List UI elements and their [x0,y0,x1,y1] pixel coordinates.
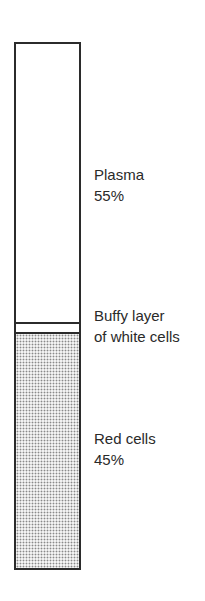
plasma-name: Plasma [94,164,144,185]
buffy-label: Buffy layer of white cells [94,305,180,347]
red-cells-label: Red cells 45% [94,428,156,470]
red-cells-name: Red cells [94,428,156,449]
plasma-layer [16,44,79,322]
buffy-detail: of white cells [94,326,180,347]
buffy-layer [16,322,79,334]
red-cells-percent: 45% [94,449,156,470]
centrifuge-tube [14,42,81,570]
buffy-name: Buffy layer [94,305,180,326]
red-cells-layer [16,334,79,568]
plasma-label: Plasma 55% [94,164,144,206]
plasma-percent: 55% [94,185,144,206]
